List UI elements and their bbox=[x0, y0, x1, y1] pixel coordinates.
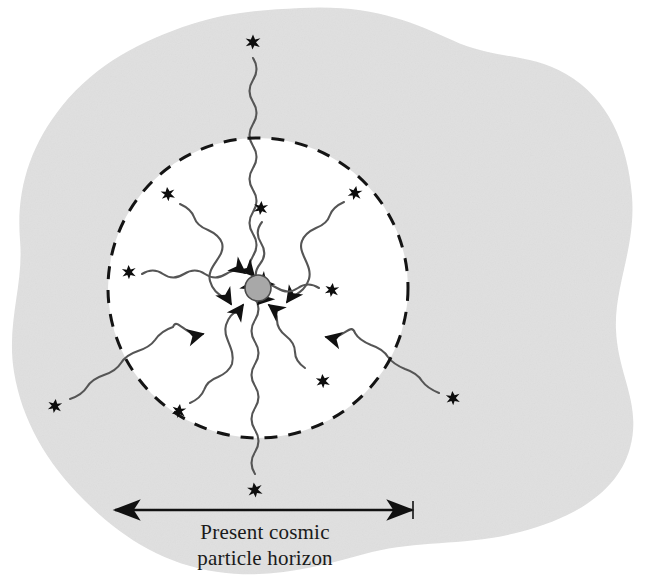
observer-marker bbox=[245, 275, 271, 301]
cosmic-horizon-diagram: Present cosmic particle horizon bbox=[0, 0, 654, 584]
caption-line-1: Present cosmic bbox=[200, 520, 329, 544]
figure-root: Present cosmic particle horizon bbox=[0, 0, 654, 584]
caption-line-2: particle horizon bbox=[197, 546, 333, 570]
observer-circle bbox=[245, 275, 271, 301]
